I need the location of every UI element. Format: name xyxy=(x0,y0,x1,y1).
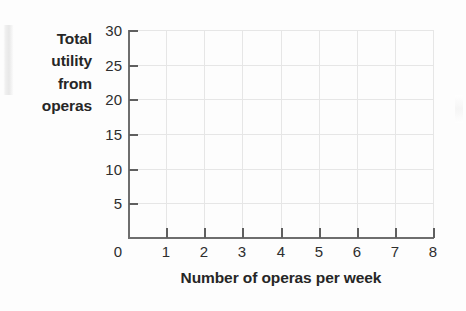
gridline-vertical xyxy=(433,30,434,238)
x-tick-mark xyxy=(433,228,435,238)
x-tick-label: 5 xyxy=(308,244,330,259)
y-tick-mark xyxy=(129,169,138,171)
y-tick-label: 25 xyxy=(82,58,122,73)
x-tick-label: 1 xyxy=(155,244,177,259)
x-tick-mark xyxy=(204,228,206,238)
y-tick-mark xyxy=(129,203,138,205)
y-tick-label: 5 xyxy=(82,196,122,211)
x-tick-mark xyxy=(281,228,283,238)
x-tick-label: 2 xyxy=(193,244,215,259)
y-tick-mark xyxy=(129,65,138,67)
gridline-vertical xyxy=(166,30,167,238)
y-tick-label: 30 xyxy=(82,23,122,38)
x-tick-label: 7 xyxy=(384,244,406,259)
x-axis-title: Number of operas per week xyxy=(128,269,434,287)
x-tick-mark xyxy=(395,228,397,238)
x-tick-mark xyxy=(319,228,321,238)
y-tick-mark xyxy=(129,30,138,32)
x-tick-mark xyxy=(166,228,168,238)
gridline-vertical xyxy=(395,30,396,238)
y-tick-label: 20 xyxy=(82,92,122,107)
plot-area xyxy=(128,30,433,238)
x-tick-label: 8 xyxy=(422,244,444,259)
scan-artifact-right xyxy=(455,95,463,123)
gridline-vertical xyxy=(281,30,282,238)
gridline-vertical xyxy=(357,30,358,238)
gridline-vertical xyxy=(204,30,205,238)
x-tick-mark xyxy=(357,228,359,238)
gridline-vertical xyxy=(242,30,243,238)
y-tick-mark xyxy=(129,134,138,136)
x-tick-label: 4 xyxy=(270,244,292,259)
y-tick-label: 10 xyxy=(82,162,122,177)
y-tick-labels: 51015202530 xyxy=(78,0,122,311)
y-tick-mark xyxy=(129,99,138,101)
origin-label: 0 xyxy=(107,244,129,259)
gridline-vertical xyxy=(319,30,320,238)
x-tick-mark xyxy=(242,228,244,238)
x-tick-label: 3 xyxy=(231,244,253,259)
x-tick-label: 6 xyxy=(346,244,368,259)
y-tick-label: 15 xyxy=(82,127,122,142)
chart-screenshot: Total utility from operas 51015202530 01… xyxy=(0,0,466,311)
